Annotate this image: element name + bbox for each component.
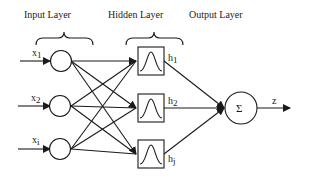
hidden-label-1: h1 <box>168 52 178 65</box>
hidden-node-j <box>138 140 164 168</box>
input-node-1 <box>51 51 72 72</box>
input-layer-brace <box>36 32 93 45</box>
hidden-output-connections <box>164 61 224 154</box>
output-layer-title: Output Layer <box>189 9 243 20</box>
sum-symbol: Σ <box>236 102 242 114</box>
input-label-1: x1 <box>32 47 42 60</box>
input-hidden-connections <box>71 61 136 154</box>
output-label-z: z <box>272 95 277 106</box>
input-label-i: xi <box>32 134 40 147</box>
input-node-i <box>50 139 71 160</box>
input-layer-title: Input Layer <box>24 9 72 20</box>
hidden-node-1 <box>138 47 164 75</box>
neural-network-diagram: Input Layer Hidden Layer Output Layer x1… <box>0 0 309 182</box>
hidden-node-2 <box>138 94 164 122</box>
input-node-2 <box>50 96 71 117</box>
input-label-2: x2 <box>31 92 41 105</box>
hidden-layer-brace <box>126 32 183 45</box>
hidden-layer-title: Hidden Layer <box>108 9 164 20</box>
hidden-label-j: hj <box>168 153 176 166</box>
hidden-label-2: h2 <box>168 95 178 108</box>
